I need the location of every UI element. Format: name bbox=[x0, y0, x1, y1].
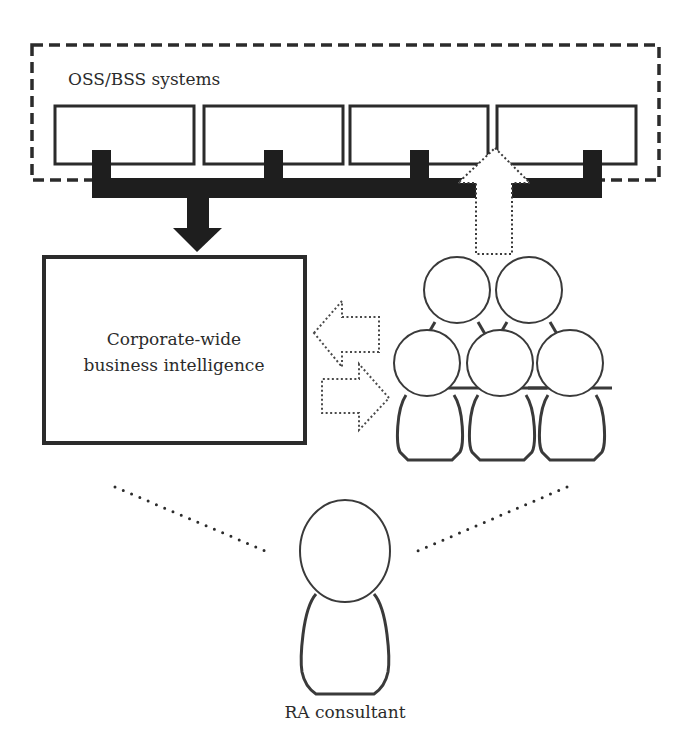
team-link bbox=[478, 322, 485, 334]
bi-box: Corporate-wide business intelligence bbox=[44, 257, 305, 443]
team-member-2-body bbox=[470, 395, 535, 460]
bus-bar-left bbox=[92, 178, 478, 198]
consultant: RA consultant bbox=[284, 500, 405, 722]
systems-group: OSS/BSS systems bbox=[32, 45, 659, 180]
left-arrow-icon bbox=[314, 301, 379, 367]
consultant-body bbox=[301, 594, 388, 694]
system-box-4 bbox=[497, 106, 636, 164]
team-member-2-head bbox=[467, 330, 533, 396]
oversight-line-right bbox=[413, 487, 567, 553]
exchange-arrows bbox=[314, 301, 389, 430]
team-member-1-head bbox=[394, 330, 460, 396]
team-member-1-body bbox=[398, 395, 463, 460]
bi-box-line2: business intelligence bbox=[84, 355, 265, 375]
right-arrow-icon bbox=[322, 364, 389, 430]
consultant-head bbox=[300, 500, 390, 602]
bi-box-line1: Corporate-wide bbox=[107, 329, 241, 349]
team-group bbox=[394, 257, 612, 460]
connector-4 bbox=[583, 150, 602, 182]
team-member-3-head bbox=[537, 330, 603, 396]
team-member-3-body bbox=[540, 395, 605, 460]
team-member-4-head bbox=[424, 257, 490, 323]
bi-box-border bbox=[44, 257, 305, 443]
system-box-1 bbox=[55, 106, 194, 164]
team-member-5-head bbox=[496, 257, 562, 323]
down-arrow-head bbox=[173, 228, 222, 252]
connector-1 bbox=[92, 150, 111, 182]
ra-consultant-diagram: OSS/BSS systems Corporate-wide business … bbox=[0, 0, 697, 751]
oversight-line-left bbox=[115, 487, 270, 553]
connector-2 bbox=[264, 150, 283, 182]
down-arrow-stem bbox=[187, 196, 209, 230]
consultant-label: RA consultant bbox=[284, 702, 405, 722]
systems-group-label: OSS/BSS systems bbox=[68, 69, 220, 89]
connector-3 bbox=[410, 150, 429, 182]
